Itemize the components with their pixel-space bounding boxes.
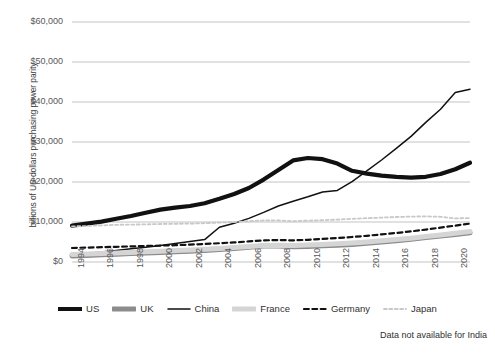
x-tick-label: 2010 [312,248,322,268]
x-tick-label: 2014 [371,248,381,268]
chart-note: Data not available for India [380,330,487,340]
x-tick-label: 2004 [223,248,233,268]
series-line-france [72,232,470,255]
y-tick-label: $30,000 [0,136,63,146]
x-tick-label: 2020 [459,248,469,268]
legend-swatch-japan-icon [383,304,407,314]
legend-item-germany[interactable]: Germany [303,303,370,314]
series-line-us [72,158,470,226]
legend-item-france[interactable]: France [232,303,290,314]
y-tick-label: $0 [0,256,63,266]
y-tick-label: $60,000 [0,16,63,26]
legend-label: Japan [411,303,437,314]
legend-item-china[interactable]: China [167,303,220,314]
legend-label: US [86,303,99,314]
legend-swatch-us-icon [58,304,82,314]
y-tick-label: $10,000 [0,216,63,226]
legend-swatch-germany-icon [303,304,327,314]
legend-item-japan[interactable]: Japan [383,303,437,314]
x-tick-label: 2016 [400,248,410,268]
gridlines [72,22,470,262]
legend-swatch-uk-icon [112,304,136,314]
x-tick-label: 2000 [164,248,174,268]
x-tick-label: 2018 [430,248,440,268]
x-tick-label: 1994 [76,248,86,268]
legend-label: Germany [331,303,370,314]
legend-swatch-france-icon [232,304,256,314]
x-tick-label: 2008 [282,248,292,268]
legend-label: China [195,303,220,314]
x-tick-label: 2012 [341,248,351,268]
series-line-china [72,89,470,255]
legend-swatch-china-icon [167,304,191,314]
y-tick-label: $20,000 [0,176,63,186]
legend-item-uk[interactable]: UK [112,303,153,314]
y-tick-label: $40,000 [0,96,63,106]
series-layer [72,89,470,256]
x-tick-label: 2006 [253,248,263,268]
chart-legend: USUKChinaFranceGermanyJapan [0,303,495,314]
legend-label: France [260,303,290,314]
line-chart: billions of US dollars purchasing power … [0,0,495,357]
legend-label: UK [140,303,153,314]
legend-item-us[interactable]: US [58,303,99,314]
y-tick-label: $50,000 [0,56,63,66]
x-tick-label: 2002 [194,248,204,268]
x-tick-label: 1998 [135,248,145,268]
x-tick-label: 1996 [105,248,115,268]
